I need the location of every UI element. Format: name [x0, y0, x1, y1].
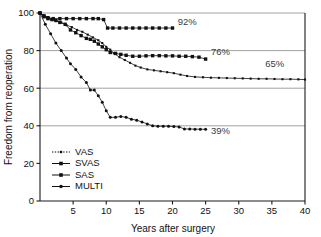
marker — [58, 21, 61, 24]
marker — [89, 89, 92, 92]
series-svas — [38, 11, 174, 29]
marker — [179, 74, 181, 76]
marker — [125, 116, 128, 119]
marker — [71, 17, 74, 20]
x-tick-label-25: 25 — [200, 205, 211, 216]
marker — [101, 101, 104, 104]
marker — [191, 55, 194, 58]
series-line-vas — [40, 13, 305, 80]
marker — [119, 53, 122, 56]
legend-swatch-marker — [59, 185, 63, 189]
marker — [138, 26, 141, 29]
marker — [129, 62, 131, 64]
marker — [166, 71, 168, 73]
marker — [60, 49, 63, 52]
annotation-92pct: 92% — [178, 16, 198, 27]
marker — [204, 57, 207, 60]
annotation-76pct: 76% — [211, 46, 231, 57]
marker — [218, 77, 220, 79]
marker — [87, 34, 89, 36]
marker — [69, 28, 72, 31]
marker — [135, 119, 138, 122]
marker — [74, 31, 77, 34]
marker — [93, 40, 96, 43]
marker — [199, 128, 202, 131]
marker — [289, 78, 291, 80]
marker — [158, 26, 161, 29]
marker — [89, 38, 92, 41]
marker — [266, 78, 268, 80]
marker — [164, 54, 167, 57]
marker — [109, 49, 111, 51]
marker — [250, 78, 252, 80]
marker — [97, 39, 99, 41]
series-multi — [39, 12, 208, 131]
y-tick-label-80: 80 — [23, 45, 34, 56]
marker — [186, 75, 188, 77]
x-tick-label-20: 20 — [167, 205, 178, 216]
marker — [171, 54, 174, 57]
marker — [134, 65, 136, 67]
marker — [194, 76, 196, 78]
legend-item-multi[interactable]: MULTI — [52, 180, 103, 191]
marker — [197, 55, 200, 58]
marker — [130, 118, 133, 121]
marker — [183, 127, 186, 130]
x-tick-label-35: 35 — [267, 205, 278, 216]
legend: VASSVASSASMULTI — [52, 146, 103, 192]
marker — [210, 77, 212, 79]
marker — [42, 15, 45, 18]
chart-figure: 020406080100 510152025303540 92%76%65%39… — [0, 0, 321, 237]
gridlines — [40, 13, 305, 126]
x-tick-label-15: 15 — [134, 205, 145, 216]
marker — [49, 32, 52, 35]
legend-item-svas[interactable]: SVAS — [52, 157, 100, 168]
marker — [131, 26, 134, 29]
legend-item-vas[interactable]: VAS — [52, 146, 93, 157]
marker — [114, 52, 117, 55]
marker — [124, 54, 127, 57]
marker — [173, 72, 175, 74]
legend-label: SVAS — [75, 157, 100, 168]
marker — [39, 12, 42, 15]
marker — [105, 48, 108, 51]
legend-swatch-marker — [59, 162, 63, 166]
annotation-39pct: 39% — [211, 125, 231, 136]
marker — [65, 17, 68, 20]
marker — [273, 78, 275, 80]
marker — [91, 17, 94, 20]
y-tick-labels: 020406080100 — [18, 7, 34, 206]
marker — [144, 54, 147, 57]
marker — [144, 26, 147, 29]
legend-swatch-marker — [59, 173, 63, 177]
series-curves — [38, 11, 306, 131]
marker — [106, 26, 109, 29]
marker — [131, 55, 134, 58]
marker — [101, 45, 104, 48]
marker — [204, 128, 207, 131]
series-line-svas — [40, 13, 173, 28]
marker — [194, 128, 197, 131]
marker — [140, 66, 142, 68]
marker — [81, 31, 83, 33]
marker — [171, 26, 174, 29]
legend-label: MULTI — [75, 180, 103, 191]
x-tick-label-40: 40 — [300, 205, 311, 216]
marker — [258, 78, 260, 80]
marker — [158, 54, 161, 57]
marker — [54, 19, 57, 22]
endpoint-annotations: 92%76%65%39% — [178, 16, 285, 136]
legend-item-sas[interactable]: SAS — [52, 169, 94, 180]
marker — [58, 17, 61, 20]
marker — [234, 77, 236, 79]
marker — [160, 70, 162, 72]
marker — [178, 125, 181, 128]
x-tick-labels: 510152025303540 — [70, 205, 310, 216]
marker — [151, 54, 154, 57]
y-tick-label-20: 20 — [23, 158, 34, 169]
marker — [202, 76, 204, 78]
x-tick-label-5: 5 — [70, 205, 75, 216]
marker — [71, 26, 73, 28]
y-tick-label-0: 0 — [29, 195, 34, 206]
marker — [63, 23, 66, 26]
